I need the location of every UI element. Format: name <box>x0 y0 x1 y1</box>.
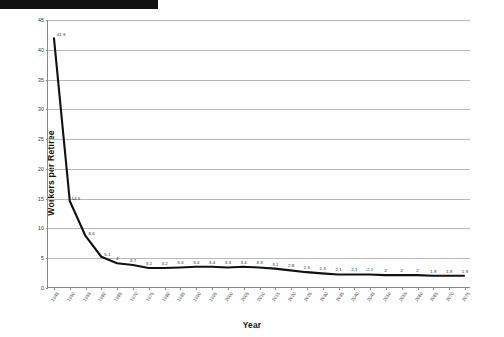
data-label: 3.7 <box>130 258 136 263</box>
data-label: 3.3 <box>256 260 262 265</box>
data-label: 2 <box>401 268 404 273</box>
x-tick-label: 2070 <box>445 291 455 302</box>
data-label: 2.1 <box>335 267 341 272</box>
data-label: 3.4 <box>193 260 199 265</box>
x-tick-label: 1950 <box>66 291 76 302</box>
data-label: 3.4 <box>241 260 247 265</box>
x-tick-mark <box>465 287 466 290</box>
line-series <box>48 20 470 287</box>
x-tick-label: 2040 <box>350 291 360 302</box>
data-label: 5.1 <box>104 252 110 257</box>
data-label: 2.1 <box>351 267 357 272</box>
x-tick-mark <box>354 287 355 290</box>
x-tick-label: 2050 <box>382 291 392 302</box>
x-tick-label: 1960 <box>97 291 107 302</box>
y-tick-label: 25 <box>38 136 44 142</box>
x-axis-title: Year <box>0 320 504 330</box>
x-tick-mark <box>260 287 261 290</box>
x-tick-mark <box>196 287 197 290</box>
y-tick-mark <box>46 288 49 289</box>
y-tick-label: 35 <box>38 77 44 83</box>
x-tick-mark <box>402 287 403 290</box>
x-tick-mark <box>244 287 245 290</box>
x-tick-label: 1980 <box>161 291 171 302</box>
data-label: 2 <box>416 268 419 273</box>
data-label: 3.3 <box>177 260 183 265</box>
x-tick-label: 2045 <box>366 291 376 302</box>
data-label: 3.2 <box>162 261 168 266</box>
x-tick-label: 2000 <box>224 291 234 302</box>
x-tick-mark <box>386 287 387 290</box>
x-tick-mark <box>339 287 340 290</box>
x-tick-label: 1955 <box>82 291 92 302</box>
data-label: 3.2 <box>146 261 152 266</box>
x-tick-mark <box>149 287 150 290</box>
data-label: 2.5 <box>304 265 310 270</box>
data-label: 8.6 <box>88 231 94 236</box>
data-label: 1.9 <box>462 269 468 274</box>
x-tick-label: 1975 <box>145 291 155 302</box>
series-polyline <box>54 38 464 275</box>
x-tick-mark <box>101 287 102 290</box>
x-tick-label: 2010 <box>256 291 266 302</box>
x-tick-label: 2015 <box>271 291 281 302</box>
x-tick-mark <box>433 287 434 290</box>
black-header-bar <box>0 0 158 9</box>
x-tick-label: 1970 <box>129 291 139 302</box>
y-tick-label: 10 <box>38 225 44 231</box>
data-label: 2 <box>385 268 388 273</box>
x-tick-label: 1985 <box>176 291 186 302</box>
x-tick-label: 1995 <box>208 291 218 302</box>
data-label: 3.1 <box>272 262 278 267</box>
data-label: 1.9 <box>430 269 436 274</box>
x-tick-mark <box>117 287 118 290</box>
x-tick-mark <box>228 287 229 290</box>
x-tick-mark <box>291 287 292 290</box>
y-tick-label: 45 <box>38 17 44 23</box>
y-tick-label: 0 <box>41 285 44 291</box>
plot-frame: 051015202530354045 194519501955196019651… <box>47 20 470 288</box>
x-tick-mark <box>370 287 371 290</box>
y-tick-label: 30 <box>38 106 44 112</box>
x-tick-label: 2075 <box>461 291 471 302</box>
y-tick-label: 20 <box>38 166 44 172</box>
x-tick-label: 1965 <box>113 291 123 302</box>
x-tick-label: 2065 <box>429 291 439 302</box>
x-tick-mark <box>418 287 419 290</box>
x-tick-mark <box>449 287 450 290</box>
x-tick-mark <box>133 287 134 290</box>
x-tick-label: 2060 <box>414 291 424 302</box>
x-tick-label: 1990 <box>192 291 202 302</box>
data-label: 2.1 <box>367 267 373 272</box>
x-tick-label: 2020 <box>287 291 297 302</box>
x-tick-mark <box>165 287 166 290</box>
x-tick-mark <box>212 287 213 290</box>
plot-area: 051015202530354045 194519501955196019651… <box>47 20 470 288</box>
data-label: 3.4 <box>209 260 215 265</box>
x-tick-mark <box>70 287 71 290</box>
data-label: 41.9 <box>57 32 66 37</box>
data-label: 14.5 <box>71 196 80 201</box>
data-label: 4 <box>116 256 119 261</box>
x-tick-label: 1945 <box>50 291 60 302</box>
x-tick-mark <box>323 287 324 290</box>
data-label: 1.9 <box>446 269 452 274</box>
y-tick-label: 40 <box>38 47 44 53</box>
y-tick-label: 15 <box>38 196 44 202</box>
x-tick-mark <box>54 287 55 290</box>
x-tick-label: 2005 <box>240 291 250 302</box>
chart-container: Workers per Retiree 051015202530354045 1… <box>0 9 504 337</box>
x-tick-label: 2025 <box>303 291 313 302</box>
x-tick-label: 2030 <box>319 291 329 302</box>
x-tick-label: 2055 <box>398 291 408 302</box>
data-label: 3.3 <box>225 260 231 265</box>
x-tick-mark <box>180 287 181 290</box>
x-tick-mark <box>307 287 308 290</box>
x-tick-mark <box>275 287 276 290</box>
x-tick-label: 2035 <box>335 291 345 302</box>
data-label: 2.3 <box>320 266 326 271</box>
data-label: 2.8 <box>288 263 294 268</box>
y-tick-label: 5 <box>41 255 44 261</box>
x-tick-mark <box>86 287 87 290</box>
